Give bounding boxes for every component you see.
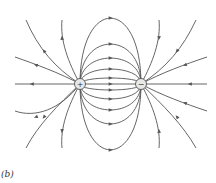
arrow-icon [109,16,113,20]
arrow-icon [109,88,113,92]
field-line [80,58,141,84]
arrow-icon [109,122,113,126]
arrow-icon [109,42,113,46]
arrow-icon [33,115,38,120]
arrow-icon [60,36,64,40]
arrow-icon [60,129,64,133]
field-line [141,84,196,148]
field-line [80,84,141,110]
arrow-icon [109,67,113,71]
field-line [141,20,159,84]
arrow-icon [188,82,192,86]
negative-charge: − [136,79,147,90]
field-line [62,20,80,84]
arrow-icon [33,63,38,68]
field-line [141,84,207,111]
arrow-icon [109,97,113,101]
field-line [80,69,141,84]
arrow-icon [109,148,113,152]
field-line [80,84,141,150]
field-line [15,84,80,113]
figure-caption: (b) [1,169,14,179]
arrow-icon [109,82,113,86]
arrow-icon [109,56,113,60]
field-line [80,18,141,84]
field-line [141,84,159,148]
arrow-icon [109,76,113,80]
field-line [80,84,141,99]
field-line [141,20,196,84]
arrow-icon [30,82,34,86]
arrow-icon [157,129,161,133]
field-line [62,84,80,148]
negative-sign: − [138,80,145,89]
field-line [15,57,80,84]
dipole-field-diagram: + − [0,0,216,183]
field-line [26,20,80,84]
arrow-icon [109,108,113,112]
positive-sign: + [77,80,84,89]
positive-charge: + [75,79,86,90]
field-line [141,57,207,84]
